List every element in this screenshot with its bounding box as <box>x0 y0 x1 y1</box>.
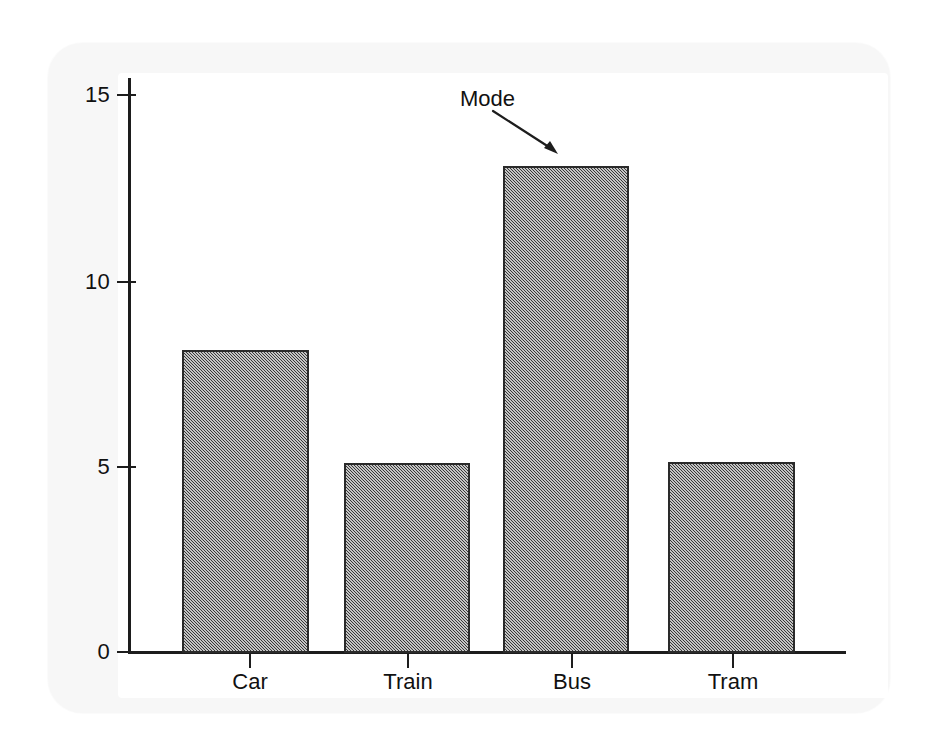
x-tick-label-tram: Tram <box>708 670 759 694</box>
y-tick-0 <box>117 651 136 653</box>
x-tick-label-train: Train <box>383 670 432 694</box>
chart-page: 15 10 5 0 Car Train Bus Tram Mode <box>0 0 936 749</box>
mode-annotation-label: Mode <box>460 88 515 110</box>
y-tick-label-5: 5 <box>0 456 110 478</box>
bar-train[interactable] <box>344 463 470 653</box>
bar-car[interactable] <box>182 350 309 653</box>
y-tick-15 <box>117 94 136 96</box>
bar-tram[interactable] <box>668 462 795 653</box>
y-tick-5 <box>117 466 136 468</box>
x-tick-car <box>249 654 251 668</box>
x-tick-tram <box>732 654 734 668</box>
y-tick-label-15: 15 <box>0 84 110 106</box>
bar-bus[interactable] <box>503 166 629 653</box>
y-tick-10 <box>117 281 136 283</box>
x-tick-bus <box>571 654 573 668</box>
y-tick-label-0: 0 <box>0 641 110 663</box>
x-tick-train <box>407 654 409 668</box>
x-tick-label-bus: Bus <box>553 670 591 694</box>
y-axis-line <box>128 78 131 654</box>
x-tick-label-car: Car <box>232 670 267 694</box>
bar-chart: 15 10 5 0 Car Train Bus Tram Mode <box>0 0 936 749</box>
y-tick-label-10: 10 <box>0 271 110 293</box>
